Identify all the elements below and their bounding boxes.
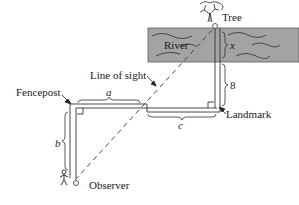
tree-label: Tree: [222, 11, 242, 23]
label-c: c: [178, 119, 183, 131]
fencepost-label: Fencepost: [16, 86, 61, 98]
line-of-sight-pointer: [147, 76, 156, 86]
brace-b: [62, 112, 68, 170]
label-8: 8: [230, 79, 236, 91]
river-width-diagram: River Tree a c b x 8: [0, 0, 299, 205]
tree-icon: [200, 2, 223, 22]
river-label: River: [164, 39, 189, 51]
line-of-sight-label: Line of sight: [90, 69, 146, 81]
fencepost-pointer: [62, 95, 71, 104]
river: River: [148, 28, 299, 62]
tree-point: [213, 24, 218, 29]
observer-person-icon: [60, 170, 68, 185]
label-a: a: [106, 86, 112, 98]
landmark-label: Landmark: [226, 108, 272, 120]
label-b: b: [55, 137, 61, 149]
observer-point: [74, 181, 79, 186]
brace-8: [222, 64, 228, 106]
label-x: x: [229, 39, 235, 51]
observer-label: Observer: [89, 179, 130, 191]
